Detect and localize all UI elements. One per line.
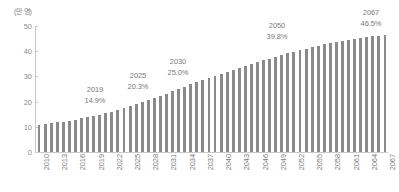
annotation-value: 46.5% <box>351 18 391 29</box>
bar <box>232 70 235 152</box>
x-tick-label: 2016 <box>78 154 87 170</box>
y-tick-mark <box>35 102 38 103</box>
bar <box>116 110 119 152</box>
x-tick-label: 2019 <box>97 154 106 170</box>
bar <box>305 49 308 152</box>
x-tick-label: 2055 <box>315 154 324 170</box>
x-tick-label: 2010 <box>42 154 51 170</box>
annotation-value: 39.8% <box>257 31 297 42</box>
x-tick-label: 2061 <box>352 154 361 170</box>
bar-chart: (만 명) 01020304050 2010201320162019202220… <box>0 0 399 192</box>
bar <box>371 36 374 152</box>
bar <box>341 41 344 152</box>
x-tick-label: 2058 <box>333 154 342 170</box>
bar <box>250 64 253 152</box>
x-tick-label: 2025 <box>133 154 142 170</box>
x-tick-label: 2031 <box>169 154 178 170</box>
bar <box>359 38 362 152</box>
annotation-year: 2019 <box>75 84 115 95</box>
x-axis-tick-labels: 2010201320162019202220252028203120342037… <box>36 154 388 192</box>
bar <box>262 60 265 152</box>
bar <box>165 94 168 152</box>
data-annotation: 205039.8% <box>257 20 297 42</box>
y-tick-label: 20 <box>8 97 32 106</box>
y-tick-label: 30 <box>8 72 32 81</box>
bar <box>86 117 89 152</box>
bar <box>335 42 338 152</box>
bar <box>329 43 332 152</box>
bar <box>147 100 150 152</box>
annotation-year: 2050 <box>257 20 297 31</box>
data-annotation: 202520.3% <box>118 70 158 92</box>
bar <box>220 74 223 152</box>
bar <box>274 57 277 152</box>
bar <box>153 98 156 152</box>
bar <box>159 96 162 152</box>
y-tick-mark <box>35 51 38 52</box>
bar <box>208 78 211 152</box>
bar <box>123 108 126 152</box>
x-axis-line <box>35 152 388 153</box>
x-tick-label: 2046 <box>261 154 270 170</box>
y-tick-label: 40 <box>8 47 32 56</box>
x-tick-label: 2034 <box>188 154 197 170</box>
annotation-value: 25.0% <box>158 67 198 78</box>
bar <box>171 91 174 152</box>
annotation-year: 2025 <box>118 70 158 81</box>
x-tick-label: 2028 <box>151 154 160 170</box>
annotation-value: 20.3% <box>118 81 158 92</box>
bar <box>214 76 217 152</box>
data-annotation: 203025.0% <box>158 56 198 78</box>
bar <box>268 59 271 152</box>
bar <box>256 62 259 152</box>
bar <box>50 123 53 152</box>
bar <box>98 115 101 152</box>
x-tick-label: 2043 <box>242 154 251 170</box>
bar <box>353 39 356 152</box>
x-tick-label: 2049 <box>279 154 288 170</box>
bar <box>226 72 229 152</box>
data-annotation: 206746.5% <box>351 7 391 29</box>
bar <box>80 118 83 152</box>
bar <box>377 36 380 152</box>
y-axis-tick-labels: 01020304050 <box>0 0 32 192</box>
annotation-year: 2030 <box>158 56 198 67</box>
bar <box>68 121 71 153</box>
y-tick-label: 50 <box>8 22 32 31</box>
y-tick-mark <box>35 76 38 77</box>
x-tick-label: 2052 <box>297 154 306 170</box>
bar <box>286 53 289 152</box>
bar <box>183 87 186 152</box>
bar <box>299 50 302 152</box>
data-annotation: 201914.9% <box>75 84 115 106</box>
bar <box>317 46 320 152</box>
bar <box>201 80 204 152</box>
bar <box>104 113 107 152</box>
bar <box>189 84 192 152</box>
x-tick-label: 2022 <box>115 154 124 170</box>
bar <box>92 116 95 152</box>
bar <box>195 82 198 152</box>
bar <box>311 47 314 152</box>
bar <box>238 68 241 152</box>
bar <box>74 120 77 153</box>
bar <box>38 125 41 152</box>
bar <box>56 122 59 152</box>
bar <box>365 37 368 152</box>
y-tick-label: 0 <box>8 148 32 157</box>
bar <box>177 89 180 152</box>
y-tick-mark <box>35 26 38 27</box>
bar <box>323 44 326 152</box>
bar <box>244 66 247 152</box>
y-tick-label: 10 <box>8 122 32 131</box>
bar <box>129 106 132 152</box>
y-tick-mark <box>35 152 38 153</box>
annotation-year: 2067 <box>351 7 391 18</box>
annotation-value: 14.9% <box>75 95 115 106</box>
bar <box>135 104 138 152</box>
bar <box>62 122 65 152</box>
bar <box>280 55 283 152</box>
x-tick-label: 2013 <box>60 154 69 170</box>
bar <box>110 112 113 152</box>
bar <box>384 35 387 152</box>
